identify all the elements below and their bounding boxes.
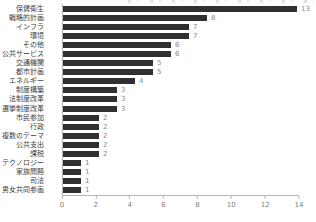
- x-tick: 6: [161, 196, 165, 209]
- bar: [63, 42, 171, 48]
- value-label: 2: [103, 133, 107, 139]
- bar: [63, 6, 297, 12]
- x-axis-ticks: 0 2 4 6 8 10 12 14: [62, 196, 299, 210]
- value-label: 7: [193, 33, 197, 39]
- value-label: 13: [301, 6, 310, 12]
- category-label: 行政: [0, 124, 44, 130]
- category-label: 複数のテーマ: [0, 133, 44, 139]
- chart-row: 都市計画 5: [63, 69, 315, 75]
- category-label: 公共支出: [0, 142, 44, 148]
- value-label: 3: [121, 87, 125, 93]
- x-tick-label: 0: [60, 201, 64, 209]
- bar: [63, 187, 81, 193]
- bar: [63, 33, 189, 39]
- value-label: 1: [85, 160, 89, 166]
- value-label: 8: [211, 15, 215, 21]
- value-label: 1: [85, 178, 89, 184]
- category-label: 市民参加: [0, 115, 44, 121]
- x-tick-mark: [265, 196, 266, 199]
- category-label: 司法: [0, 178, 44, 184]
- x-tick-mark: [197, 196, 198, 199]
- value-label: 5: [157, 60, 161, 66]
- value-label: 4: [139, 78, 143, 84]
- chart-row: 戦略的計画 8: [63, 15, 315, 21]
- category-label: その他: [0, 42, 44, 48]
- category-label: エネルギー: [0, 78, 44, 84]
- bar: [63, 60, 153, 66]
- chart-row: 公共支出 2: [63, 142, 315, 148]
- bar: [63, 124, 99, 130]
- x-tick-label: 12: [261, 201, 270, 209]
- cropped-text-artifact: [128, 0, 314, 3]
- category-label: インフラ: [0, 24, 44, 30]
- x-tick: 8: [195, 196, 199, 209]
- bar: [63, 106, 117, 112]
- category-label: 環境: [0, 33, 44, 39]
- x-tick: 4: [127, 196, 131, 209]
- bar: [63, 142, 99, 148]
- chart-row: 選挙制度改革 3: [63, 106, 315, 112]
- x-tick-label: 2: [94, 201, 98, 209]
- chart-row: その他 6: [63, 42, 315, 48]
- chart-row: 環境 7: [63, 33, 315, 39]
- bar: [63, 160, 81, 166]
- category-label: 制度構築: [0, 87, 44, 93]
- value-label: 2: [103, 142, 107, 148]
- value-label: 6: [175, 42, 179, 48]
- category-label: 男女共同参画: [0, 187, 44, 193]
- x-tick-mark: [95, 196, 96, 199]
- bar: [63, 87, 117, 93]
- value-label: 3: [121, 106, 125, 112]
- value-label: 7: [193, 24, 197, 30]
- x-tick-label: 4: [127, 201, 131, 209]
- category-label: テクノロジー: [0, 160, 44, 166]
- x-tick: 12: [261, 196, 270, 209]
- bar: [63, 115, 99, 121]
- value-label: 2: [103, 151, 107, 157]
- value-label: 5: [157, 69, 161, 75]
- bar: [63, 15, 207, 21]
- x-tick-mark: [129, 196, 130, 199]
- x-tick: 2: [94, 196, 98, 209]
- x-tick: 10: [227, 196, 236, 209]
- category-label: 家族問題: [0, 169, 44, 175]
- category-label: 課税: [0, 151, 44, 157]
- x-tick-label: 8: [195, 201, 199, 209]
- x-tick: 0: [60, 196, 64, 209]
- x-tick-label: 10: [227, 201, 236, 209]
- chart-row: インフラ 7: [63, 24, 315, 30]
- bar: [63, 169, 81, 175]
- bar: [63, 151, 99, 157]
- chart-row: 法制度改革 3: [63, 96, 315, 102]
- category-label: 公共サービス: [0, 51, 44, 57]
- chart-row: 行政 2: [63, 124, 315, 130]
- bar: [63, 51, 171, 57]
- chart-row: 家族問題 1: [63, 169, 315, 175]
- x-tick: 14: [295, 196, 304, 209]
- value-label: 2: [103, 115, 107, 121]
- chart-row: エネルギー 4: [63, 78, 315, 84]
- bar-rows: 保健衛生 13 戦略的計画 8 インフラ 7 環境 7 その他 6 公共サービス…: [63, 6, 315, 193]
- bar: [63, 133, 99, 139]
- bar: [63, 78, 135, 84]
- chart-row: 保健衛生 13: [63, 6, 315, 12]
- chart-row: テクノロジー 1: [63, 160, 315, 166]
- x-tick-label: 14: [295, 201, 304, 209]
- category-label: 保健衛生: [0, 6, 44, 12]
- chart-row: 複数のテーマ 2: [63, 133, 315, 139]
- chart-row: 課税 2: [63, 151, 315, 157]
- category-label: 戦略的計画: [0, 15, 44, 21]
- x-tick-mark: [62, 196, 63, 199]
- bar: [63, 96, 117, 102]
- bar: [63, 69, 153, 75]
- chart-row: 市民参加 2: [63, 115, 315, 121]
- plot-area: 保健衛生 13 戦略的計画 8 インフラ 7 環境 7 その他 6 公共サービス…: [62, 4, 299, 196]
- bar: [63, 178, 81, 184]
- x-tick-label: 6: [161, 201, 165, 209]
- category-label: 法制度改革: [0, 96, 44, 102]
- chart-row: 制度構築 3: [63, 87, 315, 93]
- category-label: 都市計画: [0, 69, 44, 75]
- category-label: 選挙制度改革: [0, 106, 44, 112]
- chart-row: 交通機関 5: [63, 60, 315, 66]
- x-tick-mark: [298, 196, 299, 199]
